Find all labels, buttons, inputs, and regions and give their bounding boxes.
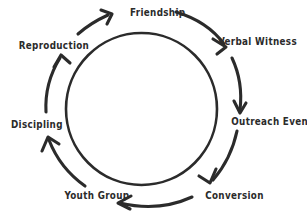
stage-label-verbal-witness: Verbal Witness bbox=[218, 36, 297, 47]
stage-label-youth-group: Youth Group bbox=[64, 190, 129, 201]
arrow-arc-outreach-to-conversion bbox=[213, 131, 237, 180]
stage-label-conversion: Conversion bbox=[205, 190, 264, 201]
arrow-arc-reproduction-to-friendship bbox=[78, 15, 108, 34]
stage-label-discipling: Discipling bbox=[11, 119, 63, 130]
cycle-diagram: Friendship Verbal Witness Outreach Event… bbox=[0, 0, 307, 224]
stage-label-reproduction: Reproduction bbox=[19, 40, 90, 51]
arrow-arc-conversion-to-youth bbox=[120, 197, 192, 206]
arrowhead-reproduction bbox=[54, 55, 70, 67]
stage-label-outreach-events: Outreach Events bbox=[231, 116, 307, 127]
arrow-arc-youth-to-discipling bbox=[49, 140, 85, 186]
stage-label-friendship: Friendship bbox=[130, 7, 185, 18]
inner-circle bbox=[66, 33, 217, 185]
